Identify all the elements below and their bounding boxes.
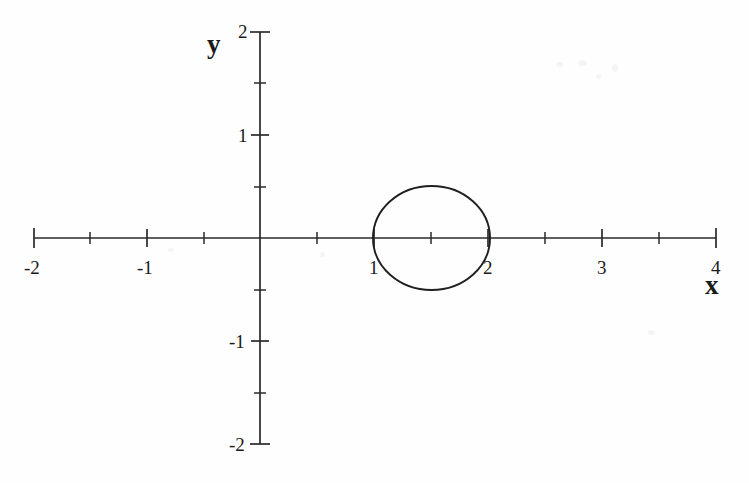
x-tick-label-3: 3: [597, 258, 607, 277]
y-tick-label-neg2: -2: [229, 435, 245, 454]
plot-canvas: [0, 0, 749, 483]
y-tick-label-neg1: -1: [229, 332, 245, 351]
y-tick-label-1: 1: [238, 126, 248, 145]
x-tick-label-2: 2: [483, 258, 493, 277]
x-tick-label-1: 1: [369, 258, 379, 277]
x-tick-label-neg1: -1: [137, 258, 153, 277]
y-tick-label-2: 2: [238, 22, 248, 41]
x-axis-label: x: [705, 272, 719, 299]
plot-figure: -2 -1 1 2 3 4 2 1 -1 -2 y x: [0, 0, 749, 483]
y-axis-label: y: [207, 31, 221, 58]
x-tick-label-neg2: -2: [24, 258, 40, 277]
